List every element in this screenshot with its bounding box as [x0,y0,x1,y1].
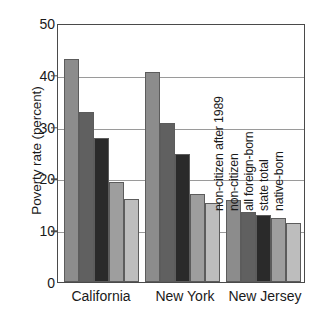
group-label-new-york: New York [143,288,227,304]
y-tick-label-40: 40 [0,68,55,84]
gridline-30 [58,129,304,130]
bar-new-york-state-total [190,194,205,282]
bar-new-jersey-state-total [271,218,286,282]
bar-california-non-citizen-after-1989 [64,59,79,282]
bar-new-jersey-non-citizen-after-1989 [226,200,241,282]
bar-california-non-citizen [79,112,94,282]
series-annotation-all-foreign-born: all foreign-born [242,132,256,211]
series-annotation-non-citizen-after-1989: non-citizen after 1989 [212,96,226,211]
y-tick-label-10: 10 [0,223,55,239]
series-annotation-non-citizen: non-citizen [227,153,241,211]
bar-new-york-non-citizen [160,123,175,282]
y-tick-label-0: 0 [0,275,55,291]
poverty-rate-bar-chart: Poverty rate (percent) 0 10 20 30 40 50 … [0,0,324,317]
y-tick-label-50: 50 [0,16,55,32]
plot-area [57,24,305,283]
y-tick-label-20: 20 [0,171,55,187]
bar-new-jersey-native-born [286,223,301,282]
y-tick-label-30: 30 [0,120,55,136]
bar-new-york-non-citizen-after-1989 [145,72,160,282]
bar-new-york-native-born [205,203,220,282]
group-label-new-jersey: New Jersey [222,288,308,304]
bar-new-jersey-all-foreign-born [256,215,271,282]
series-annotation-state-total: state total [257,159,271,211]
gridline-40 [58,77,304,78]
bar-california-native-born [124,199,139,282]
bar-new-york-all-foreign-born [175,154,190,282]
bar-california-state-total [109,182,124,282]
group-label-california: California [57,288,145,304]
series-annotation-native-born: native-born [272,151,286,211]
bar-california-all-foreign-born [94,138,109,282]
bar-new-jersey-non-citizen [241,212,256,282]
